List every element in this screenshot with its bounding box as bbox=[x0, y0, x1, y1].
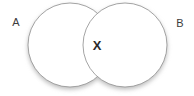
set-b-label: B bbox=[176, 17, 183, 29]
set-a-label: A bbox=[12, 16, 20, 28]
intersection-label: X bbox=[93, 38, 102, 53]
venn-diagram-canvas: A B X bbox=[0, 0, 194, 96]
venn-diagram: A B X bbox=[0, 0, 194, 96]
